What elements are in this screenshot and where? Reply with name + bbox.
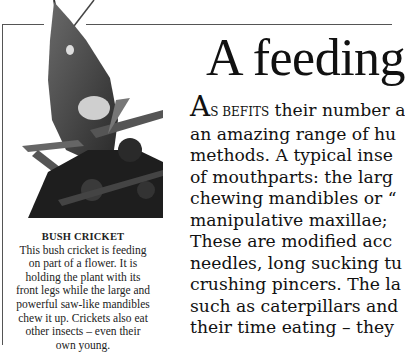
caption-line: This bush cricket is feeding xyxy=(4,244,162,258)
caption-line: holding the plant with its xyxy=(4,271,162,285)
smallcaps-lead: S BEFITS xyxy=(210,105,269,119)
caption-line: front legs while the large and xyxy=(4,284,162,298)
body-line: their time eating – they xyxy=(190,317,405,339)
drop-cap: A xyxy=(190,90,210,123)
article-headline: A feeding xyxy=(206,30,405,86)
body-line: such as caterpillars and xyxy=(190,296,405,318)
body-line: AS BEFITS their number a xyxy=(190,98,405,124)
body-line: methods. A typical inse xyxy=(190,145,405,167)
body-line: of mouthparts: the larg xyxy=(190,167,405,189)
caption-line: powerful saw-like mandibles xyxy=(4,298,162,312)
bush-cricket-photo xyxy=(18,0,163,220)
caption-title: BUSH CRICKET xyxy=(4,230,162,244)
body-line: manipulative maxillae; xyxy=(190,210,405,232)
body-line: chewing mandibles or “ xyxy=(190,188,405,210)
caption-line: own young. xyxy=(4,339,162,352)
body-line: an amazing range of hu xyxy=(190,124,405,146)
body-line: These are modified acc xyxy=(190,231,405,253)
article-body: AS BEFITS their number a an amazing rang… xyxy=(190,98,405,339)
frame-rule-left xyxy=(2,24,3,345)
photo-caption: BUSH CRICKET This bush cricket is feedin… xyxy=(4,230,162,352)
caption-line: chew it up. Crickets also eat xyxy=(4,312,162,326)
caption-line: on part of a flower. It is xyxy=(4,257,162,271)
caption-line: other insects – even their xyxy=(4,325,162,339)
body-line: crushing pincers. The la xyxy=(190,274,405,296)
body-line: needles, long sucking tu xyxy=(190,253,405,275)
